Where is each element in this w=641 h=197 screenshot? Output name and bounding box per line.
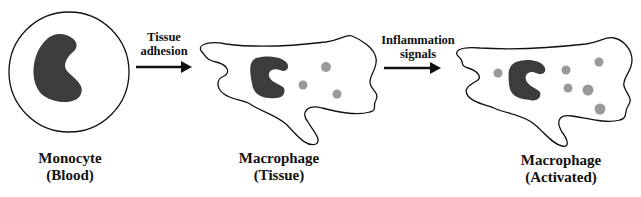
stage-label-monocyte: Monocyte (Blood) xyxy=(20,150,120,184)
granule xyxy=(494,69,503,78)
macrophage-tissue-cell xyxy=(200,36,377,145)
granule xyxy=(321,62,331,72)
stage-context: (Blood) xyxy=(20,167,120,184)
transition-line1: Inflammation xyxy=(370,33,466,47)
transition-line2: adhesion xyxy=(132,44,196,58)
granule xyxy=(595,58,604,67)
granule xyxy=(595,104,606,115)
macrophage-activated-cell xyxy=(457,38,632,147)
stage-name: Monocyte xyxy=(20,150,120,167)
transition-label-inflammation-signals: Inflammation signals xyxy=(370,33,466,61)
stage-context: (Activated) xyxy=(506,169,616,186)
granule xyxy=(583,85,594,96)
stage-label-macrophage-tissue: Macrophage (Tissue) xyxy=(224,150,334,184)
stage-label-macrophage-activated: Macrophage (Activated) xyxy=(506,152,616,186)
granule xyxy=(333,90,342,99)
granule xyxy=(562,66,571,75)
transition-label-tissue-adhesion: Tissue adhesion xyxy=(132,30,196,58)
stage-name: Macrophage xyxy=(224,150,334,167)
stage-context: (Tissue) xyxy=(224,167,334,184)
transition-line2: signals xyxy=(370,47,466,61)
stage-name: Macrophage xyxy=(506,152,616,169)
granule xyxy=(299,81,308,90)
inflammation-signals-arrow xyxy=(384,62,441,74)
granule xyxy=(564,84,573,93)
tissue-adhesion-arrow xyxy=(136,61,192,73)
monocyte-cell xyxy=(9,12,129,132)
transition-line1: Tissue xyxy=(132,30,196,44)
